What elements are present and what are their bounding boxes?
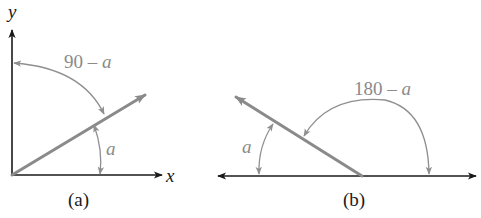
supplement-number: 180 (354, 78, 383, 99)
angle-a-label-panel-a: a (106, 138, 116, 159)
minus-sign: – (383, 78, 402, 99)
panel-a: y x 90 – a a (a) (6, 1, 175, 211)
panel-b-caption: (b) (343, 189, 365, 211)
variable-a: a (402, 78, 412, 99)
angle-a-arc-panel-a (94, 125, 101, 174)
angle-a-label-panel-b: a (242, 136, 252, 157)
ray-a (12, 95, 145, 175)
x-axis-label: x (165, 165, 175, 186)
angle-a-arc-panel-b (259, 124, 273, 174)
angle-diagram: y x 90 – a a (a) 180 – a a (b) (0, 0, 481, 218)
supplement-angle-label: 180 – a (354, 78, 411, 99)
complement-angle-label: 90 – a (64, 51, 112, 72)
complement-number: 90 (64, 51, 83, 72)
ray-b (236, 97, 362, 176)
panel-b: 180 – a a (b) (218, 78, 476, 211)
panel-a-caption: (a) (68, 189, 89, 211)
variable-a: a (102, 51, 112, 72)
minus-sign: – (83, 51, 102, 72)
supplement-angle-arc (304, 99, 429, 174)
y-axis-label: y (6, 1, 17, 22)
